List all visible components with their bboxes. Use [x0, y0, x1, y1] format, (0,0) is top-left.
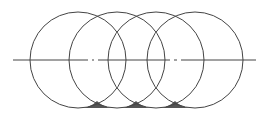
overlapping-circles-diagram — [0, 0, 262, 118]
